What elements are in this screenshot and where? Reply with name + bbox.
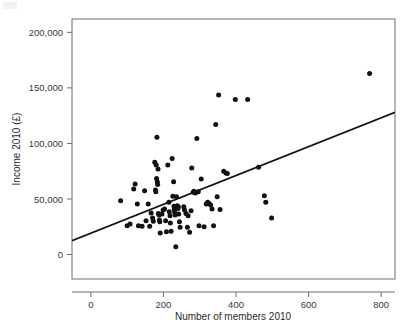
data-point	[164, 229, 169, 234]
data-point	[140, 224, 145, 229]
x-tick-label: 800	[373, 299, 389, 310]
data-point	[153, 189, 158, 194]
data-point	[225, 171, 230, 176]
data-point	[194, 136, 199, 141]
data-point	[173, 244, 178, 249]
data-point	[178, 225, 183, 230]
data-point	[189, 208, 194, 213]
y-tick-label: 150,000	[29, 82, 63, 93]
data-point	[167, 213, 172, 218]
data-point	[269, 215, 274, 220]
data-point	[162, 207, 167, 212]
data-point	[185, 225, 190, 230]
data-point	[174, 194, 179, 199]
data-point	[147, 224, 152, 229]
chart-canvas: 050,000100,000150,000200,000 02004006008…	[0, 0, 408, 329]
data-point	[216, 93, 221, 98]
y-tick-label: 50,000	[34, 194, 63, 205]
scatter-plot-figure: 050,000100,000150,000200,000 02004006008…	[0, 0, 408, 329]
data-point	[142, 188, 147, 193]
data-point	[155, 182, 160, 187]
data-point	[256, 165, 261, 170]
data-point	[233, 97, 238, 102]
data-point	[197, 223, 202, 228]
data-point	[211, 223, 216, 228]
data-point	[157, 219, 162, 224]
data-point	[135, 202, 140, 207]
data-point	[186, 213, 191, 218]
data-point	[171, 179, 176, 184]
x-tick-label: 0	[88, 299, 93, 310]
data-point	[158, 230, 163, 235]
data-point	[168, 220, 173, 225]
data-point	[213, 122, 218, 127]
x-tick-label: 400	[228, 299, 244, 310]
corner-artifact	[3, 2, 17, 9]
y-tick-label: 200,000	[29, 27, 63, 38]
figure-background	[0, 0, 408, 329]
data-point	[263, 200, 268, 205]
x-tick-label: 600	[301, 299, 317, 310]
data-point	[170, 156, 175, 161]
data-point	[133, 182, 138, 187]
x-axis-title: Number of members 2010	[175, 311, 292, 322]
data-point	[215, 194, 220, 199]
data-point	[202, 224, 207, 229]
data-point	[262, 193, 267, 198]
data-point	[146, 202, 151, 207]
data-point	[166, 200, 171, 205]
data-point	[165, 163, 170, 168]
data-point	[196, 189, 201, 194]
data-point	[189, 165, 194, 170]
y-axis-title: Income 2010 (£)	[11, 113, 22, 186]
x-tick-label: 200	[156, 299, 172, 310]
data-point	[169, 229, 174, 234]
data-point	[245, 97, 250, 102]
data-point	[177, 219, 182, 224]
data-point	[367, 71, 372, 76]
data-point	[176, 204, 181, 209]
data-point	[154, 135, 159, 140]
data-point	[128, 222, 133, 227]
data-point	[218, 207, 223, 212]
data-point	[163, 218, 168, 223]
data-point	[151, 219, 156, 224]
y-tick-label: 0	[58, 249, 63, 260]
data-point	[156, 167, 161, 172]
data-point	[149, 210, 154, 215]
data-point	[210, 207, 215, 212]
data-point	[131, 187, 136, 192]
data-point	[187, 230, 192, 235]
y-tick-label: 100,000	[29, 138, 63, 149]
data-point	[176, 212, 181, 217]
data-point	[144, 218, 149, 223]
data-point	[118, 198, 123, 203]
data-point	[199, 177, 204, 182]
